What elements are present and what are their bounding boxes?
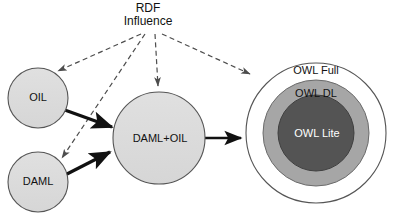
diagram-svg (0, 0, 396, 222)
daml-circle[interactable] (8, 152, 68, 212)
damloil-circle[interactable] (113, 92, 205, 184)
owl-family-group (246, 63, 386, 203)
rdf-to-owlfull-arrow (162, 34, 250, 74)
rdf-to-oil-arrow (58, 34, 141, 71)
daml-to-damloil-arrow (65, 152, 110, 175)
diagram-canvas: RDF Influence OIL DAML DAML+OIL OWL Full… (0, 0, 396, 222)
source-nodes-group (8, 68, 205, 212)
oil-circle[interactable] (8, 68, 68, 128)
rdf-to-damloil-arrow (155, 34, 158, 86)
oil-to-damloil-arrow (62, 109, 112, 127)
owl-lite-circle (278, 95, 354, 171)
